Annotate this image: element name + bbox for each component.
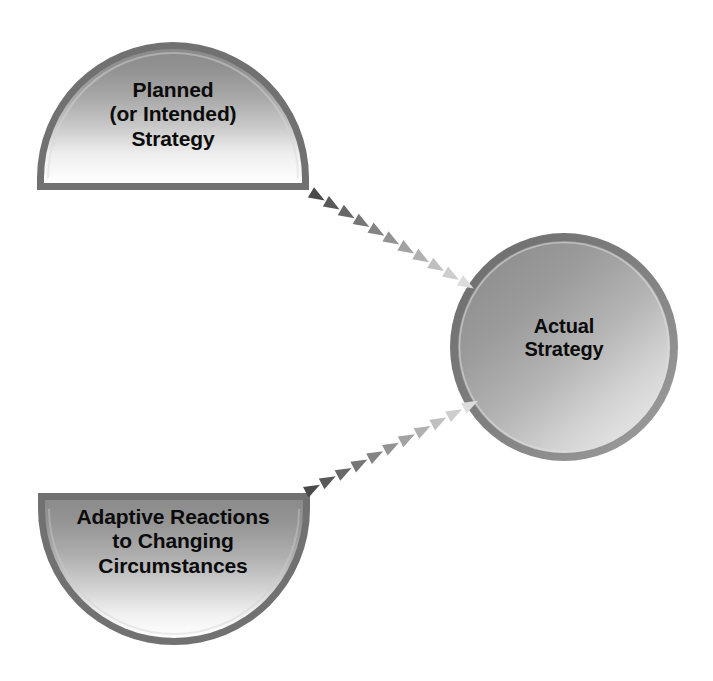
arrow-marker: [338, 205, 358, 223]
arrow-adaptive-to-actual: [303, 395, 481, 497]
node-adaptive-reactions: [38, 493, 310, 645]
arrow-marker: [429, 412, 449, 430]
planned-shape-fill: [44, 49, 302, 183]
arrow-marker: [350, 454, 370, 472]
arrow-marker: [319, 471, 339, 489]
arrow-marker: [368, 222, 388, 240]
arrow-marker: [398, 429, 418, 447]
arrow-marker: [323, 196, 343, 214]
arrow-marker: [335, 463, 355, 481]
node-planned-strategy: [37, 42, 309, 190]
arrow-marker: [414, 421, 434, 439]
adaptive-shape-fill: [45, 500, 303, 638]
arrow-marker: [308, 187, 328, 205]
arrow-marker: [397, 240, 417, 258]
node-actual-strategy: [450, 233, 678, 461]
arrow-marker: [353, 214, 373, 232]
diagram-svg: [0, 0, 713, 681]
arrow-marker: [412, 249, 432, 267]
arrow-marker: [445, 404, 465, 422]
arrow-marker: [366, 446, 386, 464]
arrow-marker: [442, 266, 462, 284]
arrow-planned-to-actual: [308, 187, 477, 293]
arrow-marker: [427, 258, 447, 276]
arrow-marker: [382, 231, 402, 249]
arrow-marker: [382, 437, 402, 455]
diagram-canvas: Planned (or Intended) Strategy Actual St…: [0, 0, 713, 681]
